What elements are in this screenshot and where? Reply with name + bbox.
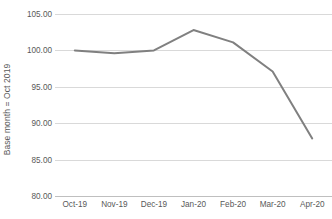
series-polyline bbox=[75, 30, 312, 138]
x-axis-line bbox=[55, 196, 332, 197]
y-axis-tick-label: 80.00 bbox=[14, 192, 52, 201]
x-axis-tick-label: Mar-20 bbox=[260, 200, 286, 209]
series-line bbox=[55, 14, 332, 196]
y-axis-tick-label: 85.00 bbox=[14, 155, 52, 164]
x-axis-tick-label: Dec-19 bbox=[141, 200, 167, 209]
clipped-chart-title bbox=[55, 0, 332, 2]
x-axis-tick-label: Apr-20 bbox=[300, 200, 325, 209]
x-axis-tick-labels: Oct-19Nov-19Dec-19Jan-20Feb-20Mar-20Apr-… bbox=[55, 200, 332, 216]
plot-area bbox=[55, 14, 332, 196]
x-axis-tick-label: Oct-19 bbox=[62, 200, 87, 209]
y-axis-tick-label: 95.00 bbox=[14, 82, 52, 91]
x-axis-tick-label: Nov-19 bbox=[101, 200, 127, 209]
y-axis-tick-labels: 105.00100.0095.0090.0085.0080.00 bbox=[12, 0, 52, 219]
y-axis-tick-label: 100.00 bbox=[14, 46, 52, 55]
y-axis-tick-label: 105.00 bbox=[14, 10, 52, 19]
x-axis-tick-label: Feb-20 bbox=[220, 200, 246, 209]
y-axis-tick-label: 90.00 bbox=[14, 119, 52, 128]
x-axis-tick-label: Jan-20 bbox=[181, 200, 206, 209]
line-chart: Base month = Oct 2019 105.00100.0095.009… bbox=[0, 0, 332, 219]
